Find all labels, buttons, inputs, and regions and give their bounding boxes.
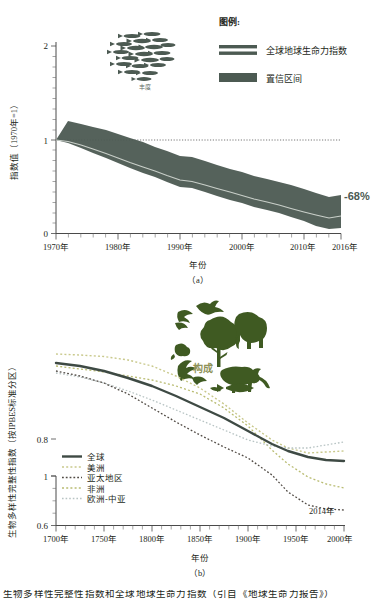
legend-title: 图例: <box>219 16 240 27</box>
legend-item-confidence-interval: 置信区间 <box>219 73 302 84</box>
school-of-fish-icon <box>107 32 176 81</box>
x-tick-label: 1850年 <box>187 534 213 544</box>
x-tick-label: 1900年 <box>235 534 261 544</box>
series-europe-central-asia <box>56 373 344 448</box>
y-tick-label: 1 <box>44 136 49 146</box>
x-tick-label: 2016年 <box>332 242 358 252</box>
x-tick-label: 1990年 <box>167 242 193 252</box>
y-axis-title: 指数值（1970年=1） <box>9 100 19 180</box>
living-planet-index-band <box>56 121 341 229</box>
figure-b-axes: 1 0.6 1700年 1750年 1800年 1850 <box>37 472 353 545</box>
y-tick-label: 0 <box>44 229 49 239</box>
percent-change-annotation: -68% <box>344 190 370 202</box>
y-tick-label: 0.6 <box>37 521 49 531</box>
x-tick-label: 1980年 <box>105 242 131 252</box>
x-tick-label: 1950年 <box>283 534 309 544</box>
figure-a-living-planet-index: 丰度 图例: 全球地球生命力指数 置信区间 <box>0 0 379 290</box>
x-tick-label: 1970年 <box>43 242 69 252</box>
x-tick-label: 2000年 <box>229 242 255 252</box>
x-tick-label: 1800年 <box>139 534 165 544</box>
legend-item-americas: 美洲 <box>62 463 105 473</box>
figure-b-biodiversity-intactness-index: 1 0.6 1700年 1750年 1800年 1850 <box>0 290 379 590</box>
figure-caption-b: （b） <box>189 568 211 578</box>
end-year-annotation: 2014年 <box>309 506 335 516</box>
page-bottom-text-strip: 生物多样性完整性指数和全球地球生命力指数（引自《地球生命力报告》） <box>0 590 379 604</box>
y-tick-label: 0.8 <box>37 435 49 445</box>
composition-annotation: 构成 <box>193 362 213 374</box>
legend-item-label: 非洲 <box>87 484 105 494</box>
x-tick-label: 2010年 <box>290 242 316 252</box>
y-tick-label: 2 <box>44 41 49 51</box>
legend-item-label: 欧洲-中亚 <box>87 494 126 504</box>
figure-caption-a: （a） <box>187 275 209 285</box>
x-axis-title: 年份 <box>191 553 209 563</box>
bottom-text: 生物多样性完整性指数和全球地球生命力指数（引自《地球生命力报告》） <box>3 590 335 600</box>
legend-item-label: 置信区间 <box>266 73 302 84</box>
y-tick-0.8-group: 0.8 <box>37 435 56 445</box>
x-axis-title: 年份 <box>189 260 207 270</box>
y-tick-label: 1 <box>44 472 49 482</box>
x-tick-label: 2000年 <box>327 534 353 544</box>
legend-item-label: 全球地球生命力指数 <box>266 45 347 56</box>
legend-item-global: 全球 <box>62 452 105 462</box>
y-axis-title: 生物多样性完整性指数（按IPBES标准分区） <box>7 362 17 538</box>
legend-item-label: 亚太地区 <box>87 473 123 483</box>
x-tick-label: 1700年 <box>43 534 69 544</box>
fish-icon-caption: 丰度 <box>139 83 151 91</box>
legend-item-living-planet-index: 全球地球生命力指数 <box>219 45 347 56</box>
legend-item-asia-pacific: 亚太地区 <box>62 473 123 483</box>
legend-item-africa: 非洲 <box>62 484 105 494</box>
x-tick-label: 1750年 <box>91 534 117 544</box>
biodiversity-wildlife-icon <box>171 300 270 393</box>
legend-item-label: 美洲 <box>87 463 105 473</box>
figure-b-legend: 全球 美洲 亚太地区 非洲 欧洲-中亚 <box>62 452 126 504</box>
legend-item-europe-central-asia: 欧洲-中亚 <box>62 494 126 504</box>
legend-item-label: 全球 <box>87 452 105 462</box>
